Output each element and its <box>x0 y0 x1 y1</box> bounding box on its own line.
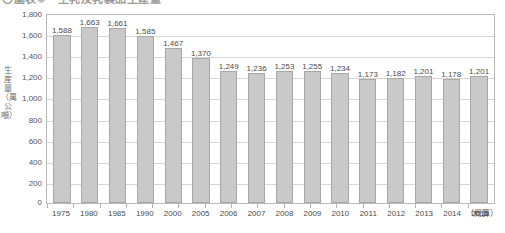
bar-value-label: 1,234 <box>330 64 350 73</box>
bar[interactable]: 1,201 <box>470 76 487 203</box>
bar[interactable]: 1,249 <box>220 71 237 203</box>
bar[interactable]: 1,234 <box>331 73 348 203</box>
bar-chart: 生産量（萬公噸） 2004006008001,0001,2001,4001,60… <box>0 0 505 233</box>
bar[interactable]: 1,663 <box>81 27 98 203</box>
bar-value-label: 1,182 <box>386 69 406 78</box>
bar-slot: 1,588 <box>48 15 76 203</box>
y-axis-tick-label: 1,000 <box>22 94 42 103</box>
x-axis-tick-label: 1985 <box>103 207 131 221</box>
x-axis-tick-label: 2005 <box>187 207 215 221</box>
bar[interactable]: 1,585 <box>137 36 154 203</box>
bar-slot: 1,201 <box>410 15 438 203</box>
x-axis-tick-label: 1980 <box>75 207 103 221</box>
bar-slot: 1,236 <box>243 15 271 203</box>
bar-value-label: 1,201 <box>413 67 433 76</box>
bar-value-label: 1,370 <box>191 49 211 58</box>
bar-value-label: 1,173 <box>358 70 378 79</box>
bar-slot: 1,178 <box>437 15 465 203</box>
bar[interactable]: 1,370 <box>192 58 209 203</box>
bar-value-label: 1,663 <box>80 18 100 27</box>
x-axis-tick-labels: 1975198019851990200020052006200720082009… <box>46 207 495 221</box>
bar-slot: 1,249 <box>215 15 243 203</box>
bar-value-label: 1,249 <box>219 62 239 71</box>
bar[interactable]: 1,236 <box>248 73 265 203</box>
x-axis-tick-label: 2006 <box>215 207 243 221</box>
bar-slot: 1,370 <box>187 15 215 203</box>
bar-slot: 1,234 <box>326 15 354 203</box>
y-axis-zero-label: 0 <box>14 198 44 207</box>
bar-slot: 1,585 <box>131 15 159 203</box>
bar-slot: 1,663 <box>76 15 104 203</box>
bar-slot: 1,201 <box>465 15 493 203</box>
x-axis-tick-label: 1975 <box>47 207 75 221</box>
x-axis-tick-label: 2012 <box>382 207 410 221</box>
plot-area: 1,5881,6631,6611,5851,4671,3701,2491,236… <box>46 14 495 204</box>
bar-slot: 1,467 <box>159 15 187 203</box>
bar-slot: 1,182 <box>382 15 410 203</box>
x-axis-tick-label: 2008 <box>271 207 299 221</box>
y-axis-tick-label: 1,400 <box>22 52 42 61</box>
bar-value-label: 1,467 <box>163 39 183 48</box>
bar-value-label: 1,201 <box>469 67 489 76</box>
y-axis-tick-label: 600 <box>29 136 42 145</box>
x-axis-tick-label: 2011 <box>354 207 382 221</box>
bar[interactable]: 1,255 <box>304 71 321 203</box>
bars-layer: 1,5881,6631,6611,5851,4671,3701,2491,236… <box>47 15 494 203</box>
x-axis-tick-label: 2007 <box>243 207 271 221</box>
bar-value-label: 1,253 <box>274 62 294 71</box>
y-axis-tick-label: 1,200 <box>22 73 42 82</box>
x-axis-tick-label: 2010 <box>326 207 354 221</box>
bar[interactable]: 1,588 <box>53 35 70 203</box>
bar-slot: 1,255 <box>298 15 326 203</box>
bar-slot: 1,661 <box>104 15 132 203</box>
bar[interactable]: 1,201 <box>415 76 432 203</box>
bar-value-label: 1,236 <box>247 64 267 73</box>
bar-slot: 1,253 <box>271 15 299 203</box>
x-axis-tick-label: 2009 <box>298 207 326 221</box>
bar-slot: 1,173 <box>354 15 382 203</box>
bar-value-label: 1,178 <box>441 70 461 79</box>
x-axis-tick-label: 2000 <box>159 207 187 221</box>
y-axis-tick-label: 400 <box>29 157 42 166</box>
x-axis-estimate-note: （概算） <box>466 207 498 221</box>
bar[interactable]: 1,661 <box>109 28 126 203</box>
bar-value-label: 1,588 <box>52 26 72 35</box>
bar[interactable]: 1,178 <box>443 79 460 203</box>
y-axis-tick-label: 1,600 <box>22 31 42 40</box>
bar[interactable]: 1,182 <box>387 78 404 203</box>
bar-value-label: 1,585 <box>135 27 155 36</box>
bar-value-label: 1,255 <box>302 62 322 71</box>
y-axis-title: 生産量（萬公噸） <box>1 66 14 120</box>
bar[interactable]: 1,253 <box>276 71 293 203</box>
x-axis-tick-label: 2014 <box>438 207 466 221</box>
x-axis-tick-label: 2013 <box>410 207 438 221</box>
bar[interactable]: 1,467 <box>165 48 182 203</box>
y-axis-tick-label: 800 <box>29 115 42 124</box>
bar-value-label: 1,661 <box>108 19 128 28</box>
y-axis-tick-label: 200 <box>29 178 42 187</box>
y-axis-tick-label: 1,800 <box>22 10 42 19</box>
bar[interactable]: 1,173 <box>359 79 376 203</box>
x-axis-tick-label: 1990 <box>131 207 159 221</box>
